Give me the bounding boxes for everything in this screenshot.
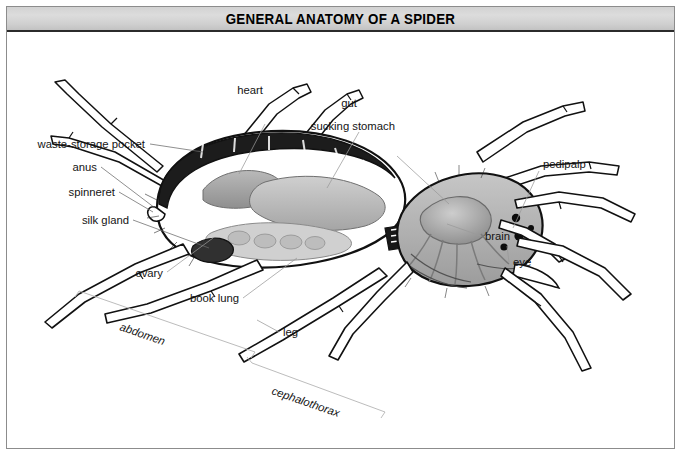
leader-leg [257, 320, 279, 332]
leader-spinneret [119, 192, 153, 212]
label-eye: eye [513, 256, 531, 268]
title-bar: GENERAL ANATOMY OF A SPIDER [7, 7, 674, 32]
eye-3 [500, 243, 507, 250]
page-title: GENERAL ANATOMY OF A SPIDER [34, 7, 648, 30]
figure-page: GENERAL ANATOMY OF A SPIDER [0, 0, 682, 457]
label-waste-storage-pocket: waste-storage pocket [37, 138, 146, 150]
label-brain: brain [485, 230, 510, 242]
label-spinneret: spinneret [69, 186, 116, 198]
label-gut: gut [341, 97, 358, 109]
figure-frame: GENERAL ANATOMY OF A SPIDER [6, 6, 675, 449]
label-abdomen: abdomen [118, 321, 166, 348]
label-heart: heart [237, 84, 264, 96]
spider-diagram: waste-storage pocket anus spinneret silk… [7, 32, 674, 448]
label-cephalothorax: cephalothorax [270, 385, 341, 420]
label-book-lung: book lung [190, 292, 239, 304]
label-pedipalp: pedipalp [543, 158, 586, 170]
label-silk-gland: silk gland [82, 214, 129, 226]
label-ovary: ovary [135, 267, 163, 279]
spider-illustration: waste-storage pocket anus spinneret silk… [7, 32, 674, 448]
leader-waste-storage-pocket [150, 144, 203, 152]
leg-right-rear [477, 102, 585, 162]
label-leg: leg [283, 326, 298, 338]
label-anus: anus [73, 161, 98, 173]
label-sucking-stomach: sucking stomach [311, 120, 395, 132]
